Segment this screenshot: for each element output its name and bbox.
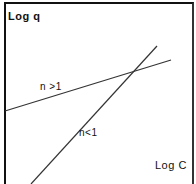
x-axis-label: Log C	[155, 159, 187, 171]
y-axis-label: Log q	[8, 10, 40, 22]
label-n-less-than-1: n<1	[79, 127, 97, 138]
line-n-less-than-1	[31, 46, 157, 184]
label-n-greater-than-1: n >1	[40, 81, 62, 92]
line-n-greater-than-1	[5, 60, 171, 111]
isotherm-lines	[0, 0, 196, 184]
